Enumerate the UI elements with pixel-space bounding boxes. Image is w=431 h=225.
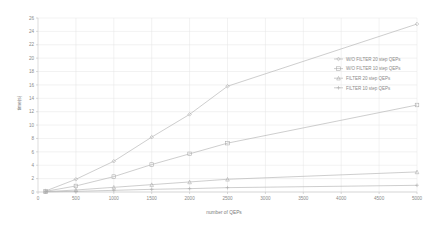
- y-tick-label: 24: [29, 29, 35, 34]
- y-tick-label: 22: [29, 42, 35, 47]
- series-line-0: [46, 24, 417, 191]
- chart-container: 02468101214161820222426 0500100015002000…: [0, 0, 431, 225]
- y-tick-label: 0: [31, 190, 34, 195]
- legend-item[interactable]: W/O FILTER 20 step QEPs: [334, 57, 401, 62]
- y-tick-label: 2: [31, 176, 34, 181]
- y-tick-label: 16: [29, 83, 35, 88]
- y-tick-label: 6: [31, 150, 34, 155]
- marker-cross: [415, 184, 419, 188]
- x-tick-label: 5000: [412, 196, 423, 201]
- gridlines: [38, 18, 417, 192]
- marker-cross: [150, 188, 154, 192]
- y-tick-label: 18: [29, 69, 35, 74]
- y-tick-labels: 02468101214161820222426: [29, 16, 35, 195]
- y-tick-label: 4: [31, 163, 34, 168]
- x-tick-label: 1500: [147, 196, 158, 201]
- y-tick-label: 14: [29, 96, 35, 101]
- y-tick-label: 20: [29, 56, 35, 61]
- line-chart: 02468101214161820222426 0500100015002000…: [0, 0, 431, 225]
- x-tick-label: 0: [37, 196, 40, 201]
- x-tick-label: 1000: [109, 196, 120, 201]
- x-axis-title: number of QEPs: [206, 210, 242, 215]
- marker-cross: [337, 86, 341, 90]
- x-tick-label: 2000: [184, 196, 195, 201]
- data-series: [46, 24, 417, 192]
- legend-label: FILTER 20 step QEPs: [346, 76, 391, 81]
- x-tick-label: 3500: [298, 196, 309, 201]
- y-tick-label: 8: [31, 136, 34, 141]
- marker-cross: [226, 186, 230, 190]
- y-tick-label: 26: [29, 16, 35, 21]
- x-tick-label: 3000: [260, 196, 271, 201]
- legend-item[interactable]: W/O FILTER 10 step QEPs: [334, 66, 401, 71]
- legend-item[interactable]: FILTER 10 step QEPs: [334, 86, 391, 91]
- y-axis-title: time(s): [17, 95, 22, 110]
- y-tick-label: 12: [29, 109, 35, 114]
- x-tick-label: 4500: [374, 196, 385, 201]
- series-line-2: [46, 172, 417, 192]
- x-tick-label: 2500: [222, 196, 233, 201]
- legend-item[interactable]: FILTER 20 step QEPs: [334, 76, 391, 81]
- x-tick-label: 4000: [336, 196, 347, 201]
- x-tick-labels: 0500100015002000250030003500400045005000: [37, 196, 423, 201]
- legend: W/O FILTER 20 step QEPsW/O FILTER 10 ste…: [334, 57, 401, 91]
- y-tick-label: 10: [29, 123, 35, 128]
- series-line-3: [46, 185, 417, 192]
- marker-cross: [188, 187, 192, 191]
- legend-label: W/O FILTER 10 step QEPs: [346, 66, 401, 71]
- legend-label: FILTER 10 step QEPs: [346, 86, 391, 91]
- legend-label: W/O FILTER 20 step QEPs: [346, 57, 401, 62]
- x-tick-label: 500: [72, 196, 80, 201]
